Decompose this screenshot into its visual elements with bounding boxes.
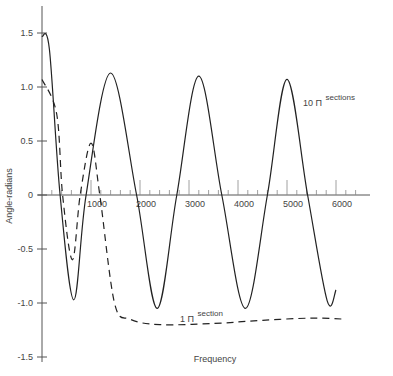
annotation-10-sections-sup: sections xyxy=(326,93,355,102)
y-tick-label: -1.0 xyxy=(17,298,33,308)
y-tick-label: -0.5 xyxy=(17,244,33,254)
x-tick-label: 3000 xyxy=(185,199,205,209)
annotation-10-sections: 10 Π sections xyxy=(303,93,355,108)
y-tick-label: 1.5 xyxy=(20,28,33,38)
angle-frequency-chart: 1.51.00.50-0.5-1.0-1.5 10002000300040005… xyxy=(0,0,393,376)
x-tick-label: 4000 xyxy=(234,199,254,209)
annotation-1-section-sup: section xyxy=(198,309,223,318)
y-axis-title: Angle-radians xyxy=(4,168,14,224)
y-ticks: 1.51.00.50-0.5-1.0-1.5 xyxy=(17,28,47,362)
x-axis-title: Frequency xyxy=(194,354,237,364)
y-tick-label: 0.5 xyxy=(20,136,33,146)
x-tick-label: 6000 xyxy=(332,199,352,209)
x-tick-label: 5000 xyxy=(283,199,303,209)
annotation-10-sections-main: 10 Π xyxy=(303,98,322,108)
y-tick-label: 0 xyxy=(28,190,33,200)
series-10-sections-line xyxy=(42,34,336,309)
annotation-1-section-main: 1 Π xyxy=(180,314,194,324)
y-tick-label: 1.0 xyxy=(20,82,33,92)
x-tick-label: 1000 xyxy=(87,199,107,209)
y-tick-label: -1.5 xyxy=(17,352,33,362)
annotation-1-section: 1 Π section xyxy=(180,309,223,324)
